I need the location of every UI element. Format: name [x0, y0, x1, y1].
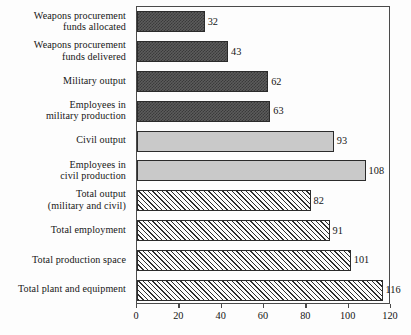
category-label-line: funds delivered: [0, 51, 126, 62]
bar-value-label: 108: [369, 165, 384, 176]
bars-layer: [137, 7, 389, 303]
x-axis-tick: [136, 304, 137, 308]
category-label: Weapons procurementfunds allocated: [0, 10, 126, 33]
bar-value-label: 93: [337, 135, 347, 146]
bar-value-label: 91: [333, 225, 343, 236]
x-axis-tick: [221, 304, 222, 308]
x-axis-tick: [305, 304, 306, 308]
category-label-line: Total plant and equipment: [0, 283, 126, 294]
bar: [137, 41, 228, 62]
x-axis-tick-label: 100: [340, 310, 355, 322]
category-label-line: Total production space: [0, 254, 126, 265]
bar-value-label: 101: [354, 254, 369, 265]
bar: [137, 250, 351, 271]
category-label-line: Total output: [0, 188, 126, 199]
category-label: Total production space: [0, 254, 126, 265]
bar-value-label: 82: [314, 195, 324, 206]
category-label-line: funds allocated: [0, 21, 126, 32]
bar-value-label: 63: [273, 105, 283, 116]
category-label-line: military production: [0, 110, 126, 121]
category-label-line: Civil output: [0, 134, 126, 145]
category-label-line: Employees in: [0, 159, 126, 170]
x-axis-tick: [263, 304, 264, 308]
category-label-line: Military output: [0, 75, 126, 86]
bar: [137, 71, 268, 92]
bar: [137, 11, 205, 32]
category-label: Total plant and equipment: [0, 283, 126, 294]
bar: [137, 220, 330, 241]
x-axis-tick: [390, 304, 391, 308]
category-label-line: Weapons procurement: [0, 39, 126, 50]
bar-chart: Weapons procurementfunds allocatedWeapon…: [0, 0, 411, 335]
category-label-line: civil production: [0, 170, 126, 181]
bar: [137, 101, 270, 122]
bar-value-label: 32: [208, 16, 218, 27]
category-label: Military output: [0, 75, 126, 86]
bar: [137, 160, 366, 181]
category-label: Employees inmilitary production: [0, 99, 126, 122]
x-axis-tick-label: 120: [382, 310, 397, 322]
category-label-column: Weapons procurementfunds allocatedWeapon…: [0, 6, 130, 304]
category-label: Civil output: [0, 134, 126, 145]
category-label-line: Total employment: [0, 224, 126, 235]
category-label-line: Employees in: [0, 99, 126, 110]
x-axis-tick-label: 80: [300, 310, 310, 322]
bar: [137, 190, 311, 211]
category-label-line: Weapons procurement: [0, 10, 126, 21]
bar-value-label: 62: [271, 76, 281, 87]
x-axis-tick-label: 40: [216, 310, 226, 322]
x-axis-tick-label: 60: [258, 310, 268, 322]
x-axis: 020406080100120: [136, 304, 390, 334]
x-axis-tick: [348, 304, 349, 308]
category-label: Total employment: [0, 224, 126, 235]
bar-value-label: 116: [386, 284, 401, 295]
x-axis-tick-label: 20: [173, 310, 183, 322]
category-label: Employees incivil production: [0, 159, 126, 182]
bar: [137, 131, 334, 152]
category-label: Total output(military and civil): [0, 188, 126, 211]
x-axis-tick: [178, 304, 179, 308]
plot-frame: [136, 6, 390, 304]
bar: [137, 280, 383, 301]
bar-value-label: 43: [231, 46, 241, 57]
x-axis-tick-label: 0: [133, 310, 138, 322]
category-label-line: (military and civil): [0, 200, 126, 211]
category-label: Weapons procurementfunds delivered: [0, 39, 126, 62]
